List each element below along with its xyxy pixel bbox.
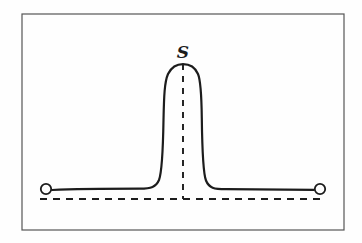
right-endpoint-marker — [315, 184, 325, 194]
peak-label: S — [177, 42, 189, 62]
left-endpoint-marker — [41, 184, 51, 194]
diagram-canvas: S — [0, 0, 362, 243]
figure-container: S — [0, 0, 362, 243]
